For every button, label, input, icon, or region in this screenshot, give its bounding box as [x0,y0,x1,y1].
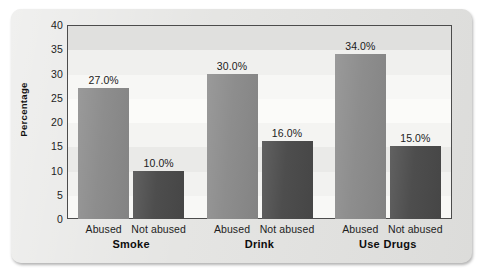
bar-use-drugs-not-abused [390,146,441,219]
y-axis-tick-label: 30 [51,68,63,80]
x-axis-category-label: Not abused [123,223,194,235]
y-axis-tick-label: 5 [57,189,63,201]
bar-sheen [133,171,184,220]
bar-value-label: 16.0% [254,127,321,139]
bar-use-drugs-abused [335,54,386,219]
y-axis-ticks: 0510152025303540 [27,25,63,219]
y-axis-tick-label: 20 [51,116,63,128]
bar-sheen [207,74,258,220]
bar-value-label: 34.0% [327,40,394,52]
bar-smoke-not-abused [133,171,184,220]
y-axis-tick-label: 35 [51,43,63,55]
bar-smoke-abused [78,88,129,219]
x-axis-group-label: Smoke [67,238,195,250]
bar-value-label: 10.0% [125,157,192,169]
x-axis-group-label: Use Drugs [324,238,452,250]
y-axis-tick-label: 40 [51,19,63,31]
x-axis-category-label: Not abused [380,223,451,235]
x-axis-category-label: Not abused [252,223,323,235]
bar-sheen [390,146,441,219]
x-axis-group-label: Drink [195,238,323,250]
bar-sheen [262,141,313,219]
figure-root: 0510152025303540 Percentage 27.0%Abused1… [0,0,483,273]
bar-value-label: 27.0% [70,74,137,86]
y-axis-title: Percentage [18,65,29,155]
bar-sheen [78,88,129,219]
bar-sheen [335,54,386,219]
bar-value-label: 30.0% [199,60,266,72]
y-axis-tick-label: 10 [51,165,63,177]
y-axis-tick-label: 0 [57,213,63,225]
bar-drink-not-abused [262,141,313,219]
bar-value-label: 15.0% [382,132,449,144]
y-axis-tick-label: 15 [51,140,63,152]
bar-drink-abused [207,74,258,220]
y-axis-tick-label: 25 [51,92,63,104]
